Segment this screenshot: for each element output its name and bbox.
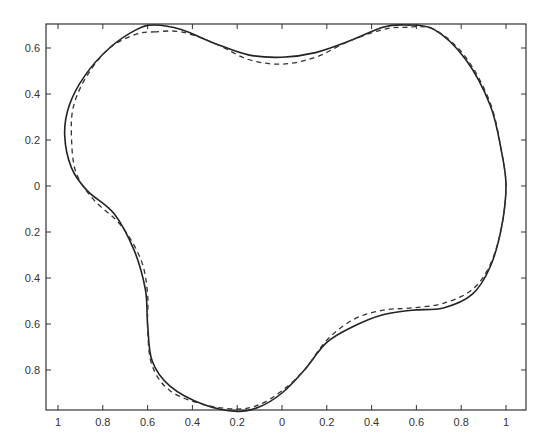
y-tick-label: 0.2: [25, 134, 40, 146]
dashed-curve: [71, 27, 506, 410]
y-tick-label: 0.4: [25, 88, 40, 100]
y-tick-label: 0.4: [25, 272, 40, 284]
y-tick-label: 0.2: [25, 226, 40, 238]
x-tick-label: 0.2: [319, 416, 334, 428]
y-axis-ticks: 0.60.40.200.20.40.60.8: [25, 42, 526, 376]
y-tick-label: 0.6: [25, 318, 40, 330]
x-tick-label: 0.4: [364, 416, 379, 428]
x-tick-label: 0.4: [185, 416, 200, 428]
chart: 10.80.60.40.200.20.40.60.81 0.60.40.200.…: [0, 0, 541, 439]
x-tick-label: 0: [279, 416, 285, 428]
x-tick-label: 0.6: [409, 416, 424, 428]
x-tick-label: 1: [55, 416, 61, 428]
x-tick-label: 0.6: [140, 416, 155, 428]
x-tick-label: 0.8: [95, 416, 110, 428]
x-tick-label: 0.8: [454, 416, 469, 428]
y-tick-label: 0.6: [25, 42, 40, 54]
y-tick-label: 0: [34, 180, 40, 192]
solid-curve: [65, 25, 506, 412]
plot-series: [65, 25, 506, 412]
axes-frame: [46, 24, 526, 410]
x-tick-label: 1: [503, 416, 509, 428]
y-tick-label: 0.8: [25, 364, 40, 376]
x-tick-label: 0.2: [230, 416, 245, 428]
